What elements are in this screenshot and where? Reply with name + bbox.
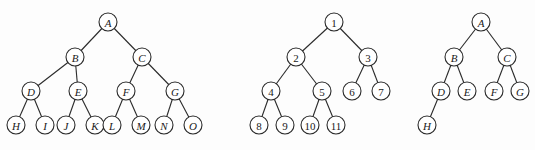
node-label: L — [108, 120, 115, 132]
tree-node-5: 5 — [313, 82, 331, 100]
node-label: B — [451, 52, 458, 64]
tree-node-1: 1 — [325, 13, 343, 31]
node-label: O — [189, 120, 197, 132]
trees-svg: ABCDEFGHIJKLMNO1234567891011ABCDEFGH — [0, 0, 535, 150]
node-label: 3 — [365, 52, 371, 64]
node-label: 9 — [282, 120, 288, 132]
full-binary-tree: ABCDEFGHIJKLMNO — [7, 13, 202, 134]
node-label: 11 — [331, 120, 342, 132]
tree-node-H: H — [7, 116, 25, 134]
node-label: C — [138, 52, 146, 64]
node-label: 10 — [305, 120, 317, 132]
node-label: M — [135, 120, 146, 132]
tree-node-D: D — [432, 82, 450, 100]
tree-node-G: G — [511, 82, 529, 100]
tree-node-O: O — [184, 116, 202, 134]
tree-edges — [16, 22, 193, 125]
tree-node-L: L — [103, 116, 121, 134]
tree-edges — [259, 22, 381, 125]
node-label: A — [104, 17, 112, 29]
tree-node-A: A — [99, 13, 117, 31]
node-label: E — [463, 86, 471, 98]
node-label: H — [422, 120, 432, 132]
tree-node-2: 2 — [287, 48, 305, 66]
node-label: N — [159, 120, 168, 132]
node-label: K — [90, 120, 99, 132]
tree-node-7: 7 — [372, 82, 390, 100]
non-complete-binary-tree: ABCDEFGH — [418, 13, 529, 134]
tree-node-E: E — [458, 82, 476, 100]
tree-node-M: M — [132, 116, 150, 134]
node-label: F — [122, 86, 130, 98]
tree-node-4: 4 — [262, 82, 280, 100]
node-label: C — [503, 52, 511, 64]
node-label: D — [436, 86, 445, 98]
tree-node-F: F — [117, 82, 135, 100]
tree-node-8: 8 — [250, 116, 268, 134]
node-label: G — [516, 86, 524, 98]
tree-node-C: C — [498, 48, 516, 66]
node-label: G — [171, 86, 179, 98]
tree-node-3: 3 — [359, 48, 377, 66]
node-label: E — [74, 86, 82, 98]
node-label: 8 — [256, 120, 262, 132]
tree-node-E: E — [69, 82, 87, 100]
node-label: 2 — [293, 52, 299, 64]
node-label: 6 — [349, 86, 355, 98]
node-label: 5 — [319, 86, 325, 98]
node-label: 1 — [331, 17, 337, 29]
node-label: D — [26, 86, 35, 98]
tree-node-J: J — [57, 116, 75, 134]
tree-node-9: 9 — [276, 116, 294, 134]
tree-node-H: H — [418, 116, 436, 134]
node-label: 7 — [378, 86, 384, 98]
node-label: H — [11, 120, 21, 132]
tree-node-A: A — [472, 13, 490, 31]
tree-node-D: D — [22, 82, 40, 100]
tree-node-10: 10 — [301, 116, 319, 134]
node-label: B — [72, 52, 79, 64]
node-label: F — [490, 86, 498, 98]
binary-trees-figure: ABCDEFGHIJKLMNO1234567891011ABCDEFGH — [0, 0, 535, 150]
tree-node-F: F — [485, 82, 503, 100]
tree-edges — [427, 22, 520, 125]
node-label: 4 — [268, 86, 274, 98]
tree-node-N: N — [155, 116, 173, 134]
tree-node-C: C — [133, 48, 151, 66]
complete-binary-tree: 1234567891011 — [250, 13, 390, 134]
tree-node-B: B — [66, 48, 84, 66]
tree-node-I: I — [36, 116, 54, 134]
node-label: A — [477, 17, 485, 29]
tree-node-G: G — [166, 82, 184, 100]
tree-node-11: 11 — [327, 116, 345, 134]
tree-node-B: B — [445, 48, 463, 66]
tree-node-K: K — [86, 116, 104, 134]
tree-node-6: 6 — [343, 82, 361, 100]
